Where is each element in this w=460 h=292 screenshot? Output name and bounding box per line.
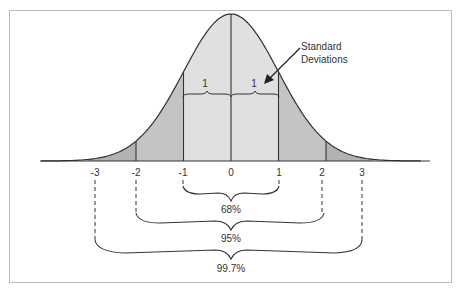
x-tick-label: -3	[91, 167, 100, 178]
x-tick-label: 2	[319, 167, 325, 178]
sd-label-right: 1	[251, 78, 257, 89]
x-tick-label: 0	[228, 167, 234, 178]
range-label-95: 95%	[221, 233, 241, 244]
sd-label-left: 1	[202, 78, 208, 89]
x-tick-label: -1	[179, 167, 188, 178]
annotation-line-1: Standard	[301, 41, 342, 52]
x-tick-label: -2	[132, 167, 141, 178]
x-tick-label: 1	[276, 167, 282, 178]
brace-95	[136, 213, 324, 230]
annotation-line-2: Deviations	[301, 54, 348, 65]
normal-distribution-diagram: 1 1 Standard Deviations -3-2-10123 68% 9…	[0, 0, 460, 292]
x-tick-label: 3	[359, 167, 365, 178]
range-label-99-7: 99.7%	[217, 263, 245, 274]
range-label-68: 68%	[221, 204, 241, 215]
brace-68	[183, 186, 279, 201]
